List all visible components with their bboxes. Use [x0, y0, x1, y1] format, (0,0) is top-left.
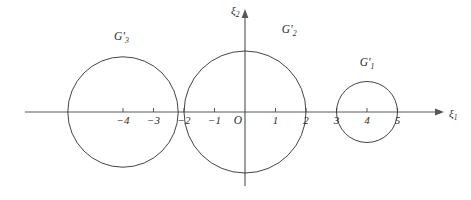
x-axis-tick-label: −4	[117, 114, 130, 126]
region-labels-group: G′3G′2G′1	[114, 23, 374, 71]
x-axis-tick-label: 3	[333, 114, 340, 126]
coordinate-plane-diagram: −4−3−2−112345 O G′3G′2G′1 ξ1 ξ2	[0, 0, 471, 200]
x-axis-label: ξ1	[449, 107, 457, 122]
x-axis-tick-label: 5	[395, 114, 401, 126]
x-axis-arrowhead	[435, 109, 444, 116]
x-axis-tick-label: −2	[178, 114, 191, 126]
x-axis-tick-label: −3	[147, 114, 160, 126]
x-axis-tick-label: 1	[273, 114, 279, 126]
G2-circle-label: G′2	[282, 23, 297, 38]
y-axis-label: ξ2	[231, 4, 240, 19]
G1-circle-label: G′1	[360, 56, 375, 71]
x-axis-tick-labels: −4−3−2−112345	[117, 114, 401, 126]
origin-label: O	[234, 114, 243, 126]
x-axis-tick-label: 4	[364, 114, 370, 126]
G3-circle-label: G′3	[114, 30, 129, 45]
x-axis-tick-label: −1	[208, 114, 221, 126]
axes-group	[25, 9, 444, 186]
x-axis-tick-marks	[123, 108, 398, 112]
y-axis-arrowhead	[242, 9, 249, 18]
figure-canvas: −4−3−2−112345 O G′3G′2G′1 ξ1 ξ2	[0, 0, 471, 200]
x-axis-tick-label: 2	[303, 114, 309, 126]
